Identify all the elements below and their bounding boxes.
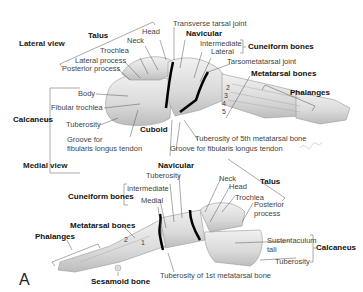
- lateral-view-title: Lateral view: [19, 40, 65, 48]
- tuberosity-1st-metatarsal-label: Tuberosity of 1st metatarsal bone: [160, 272, 271, 280]
- medial-view-title: Medial view: [23, 162, 67, 170]
- medial-metatarsal-label: Metatarsal bones: [70, 222, 135, 230]
- medial-calcaneus-sustentaculum-line1: Sustentaculum: [267, 237, 317, 245]
- medial-navicular-label: Navicular: [158, 162, 194, 170]
- lateral-phalanges-label: Phalanges: [290, 89, 330, 97]
- medial-cuneiform-intermediate: Intermediate: [127, 185, 169, 193]
- medial-phalanges-label: Phalanges: [35, 233, 75, 241]
- lateral-calcaneus-body: Body: [78, 90, 95, 98]
- lateral-metatarsal-label: Metatarsal bones: [251, 70, 316, 78]
- medial-calcaneus-tuberosity: Tuberosity: [275, 258, 310, 266]
- lateral-talus-trochlea: Trochlea: [100, 47, 129, 55]
- medial-cuneiform-medial: Medial: [141, 197, 163, 205]
- lateral-talus-head: Head: [142, 28, 160, 36]
- metatarsal-number-5: 5: [222, 108, 226, 115]
- tarsometatarsal-joint-label: Tarsometatarsal joint: [227, 58, 296, 66]
- lateral-calcaneus-fibular-trochlea: Fibular trochlea: [51, 104, 103, 112]
- medial-calcaneus-label: Calcaneus: [316, 244, 356, 252]
- metatarsal-number-4: 4: [222, 100, 226, 107]
- metatarsal-number-3: 3: [224, 92, 228, 99]
- cuboid-label: Cuboid: [140, 126, 168, 134]
- medial-metatarsal-number-1: 1: [141, 239, 145, 246]
- medial-calcaneus-sustentaculum-line2: tali: [267, 246, 277, 254]
- lateral-navicular-label: Navicular: [186, 30, 222, 38]
- lateral-talus-neck: Neck: [127, 37, 144, 45]
- tuberosity-5th-metatarsal-label: Tuberosity of 5th metatarsal bone: [195, 135, 306, 143]
- medial-cuneiform-label: Cuneiform bones: [68, 193, 134, 201]
- lateral-calcaneus-tuberosity: Tuberosity: [66, 121, 101, 129]
- lateral-talus-posterior-process: Posterior process: [62, 65, 120, 73]
- medial-foot-bones: [58, 203, 262, 272]
- transverse-tarsal-joint-label: Transverse tarsal joint: [173, 20, 247, 28]
- sesamoid-bone-label: Sesamoid bone: [91, 278, 150, 286]
- lateral-talus-label: Talus: [88, 32, 108, 40]
- panel-letter: A: [19, 272, 30, 289]
- medial-talus-posterior-line2: process: [254, 210, 280, 218]
- medial-metatarsal-number-2: 2: [124, 236, 128, 243]
- medial-talus-posterior-line1: Posterior: [254, 201, 284, 209]
- lateral-calcaneus-groove-line1: Groove for: [67, 136, 102, 144]
- metatarsal-number-2: 2: [226, 84, 230, 91]
- lateral-cuneiform-label: Cuneiform bones: [248, 43, 314, 51]
- medial-talus-head: Head: [229, 183, 247, 191]
- medial-navicular-tuberosity: Tuberosity: [146, 172, 181, 180]
- lateral-calcaneus-label: Calcaneus: [13, 116, 53, 124]
- foot-bones-diagram: Lateral view Talus Head Neck Trochlea La…: [0, 0, 363, 292]
- groove-fibularis-label: Groove for fibularis longus tendon: [170, 145, 283, 153]
- lateral-cuneiform-lateral: Lateral: [211, 48, 234, 56]
- lateral-calcaneus-groove-line2: fibularis longus tendon: [67, 145, 142, 153]
- medial-talus-label: Talus: [260, 178, 280, 186]
